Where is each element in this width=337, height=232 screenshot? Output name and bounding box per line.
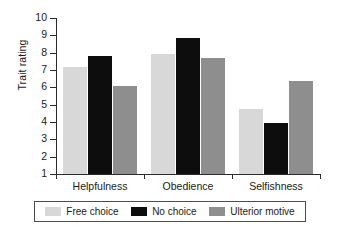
plot-area: 12345678910: [56, 18, 320, 174]
bar: [88, 56, 112, 174]
legend-label: No choice: [152, 206, 196, 218]
y-axis-tick: 4: [50, 122, 56, 123]
y-axis-tick-label: 7: [41, 63, 47, 76]
y-axis-tick: 3: [50, 139, 56, 140]
y-axis-tick: 7: [50, 70, 56, 71]
y-axis-tick-label: 2: [41, 150, 47, 163]
y-axis-tick: 8: [50, 53, 56, 54]
legend-label: Free choice: [66, 206, 118, 218]
chart-legend: Free choiceNo choiceUlterior motive: [34, 201, 306, 222]
legend-item: No choice: [131, 206, 196, 218]
y-axis-tick-label: 5: [41, 98, 47, 111]
y-axis-tick-label: 6: [41, 80, 47, 93]
y-axis-tick-label: 4: [41, 115, 47, 128]
legend-swatch: [131, 207, 147, 216]
y-axis-tick-label: 1: [41, 167, 47, 180]
bar: [113, 86, 137, 174]
bar: [264, 123, 288, 174]
bar: [176, 38, 200, 174]
y-axis-tick-label: 9: [41, 28, 47, 41]
x-axis-category-label: Obedience: [163, 180, 214, 193]
x-axis-tick: [144, 174, 145, 179]
y-axis-tick: 6: [50, 87, 56, 88]
legend-swatch: [209, 207, 225, 216]
y-axis-tick-label: 8: [41, 46, 47, 59]
x-axis-category-label: Helpfulness: [73, 180, 128, 193]
legend-swatch: [45, 207, 61, 216]
legend-label: Ulterior motive: [230, 206, 294, 218]
y-axis-title: Trait rating: [15, 15, 29, 115]
bar: [63, 67, 87, 174]
y-axis-tick-label: 3: [41, 132, 47, 145]
x-axis-category-label: Selfishness: [249, 180, 303, 193]
y-axis-tick-label: 10: [35, 11, 47, 24]
bar: [201, 58, 225, 174]
x-axis-line: [56, 174, 321, 175]
bar: [151, 54, 175, 174]
legend-item: Free choice: [45, 206, 118, 218]
x-axis-tick: [56, 174, 57, 179]
legend-item: Ulterior motive: [209, 206, 294, 218]
y-axis-tick: 10: [50, 18, 56, 19]
bar: [239, 109, 263, 174]
bar: [289, 81, 313, 174]
y-axis-tick: 9: [50, 35, 56, 36]
y-axis-tick: 2: [50, 157, 56, 158]
x-axis-tick: [320, 174, 321, 179]
y-axis-tick: 5: [50, 105, 56, 106]
bar-chart-figure: Trait rating 12345678910 HelpfulnessObed…: [0, 0, 337, 232]
x-axis-tick: [232, 174, 233, 179]
